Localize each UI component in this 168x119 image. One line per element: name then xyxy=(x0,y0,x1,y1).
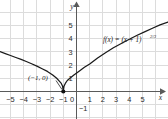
y-tick-label: 5 xyxy=(68,21,72,30)
cusp-point-label: (−1, 0) xyxy=(28,74,49,82)
y-axis-label: y xyxy=(69,2,74,11)
x-tick-label: −4 xyxy=(19,95,27,104)
x-tick-label: 5 xyxy=(140,95,144,104)
plot-canvas: −5 −4 −3 −2 −1 0 1 2 3 4 5 5 4 3 2 1 −1 … xyxy=(0,0,168,119)
y-tick-label-negative: −1 xyxy=(79,104,87,113)
function-label-text: f(x) = (x + 1) xyxy=(103,36,142,44)
graph-figure: −5 −4 −3 −2 −1 0 1 2 3 4 5 5 4 3 2 1 −1 … xyxy=(0,0,168,119)
x-tick-label: −5 xyxy=(6,95,14,104)
function-label-exponent: 2/3 xyxy=(150,34,157,39)
x-tick-label: −2 xyxy=(46,95,54,104)
x-tick-label-origin: 0 xyxy=(70,95,74,104)
x-tick-label: −3 xyxy=(33,95,41,104)
x-axis-label: x xyxy=(158,93,163,102)
x-tick-label: −1 xyxy=(59,95,67,104)
y-tick-label: 2 xyxy=(68,61,72,70)
x-tick-label: 2 xyxy=(101,95,105,104)
x-tick-label: 3 xyxy=(114,95,118,104)
x-tick-label: 1 xyxy=(88,95,92,104)
y-tick-label: 1 xyxy=(68,74,72,83)
x-tick-label: 4 xyxy=(127,95,131,104)
y-tick-label: 3 xyxy=(68,48,72,57)
y-tick-label: 4 xyxy=(68,34,72,43)
cusp-point-marker xyxy=(61,89,65,93)
